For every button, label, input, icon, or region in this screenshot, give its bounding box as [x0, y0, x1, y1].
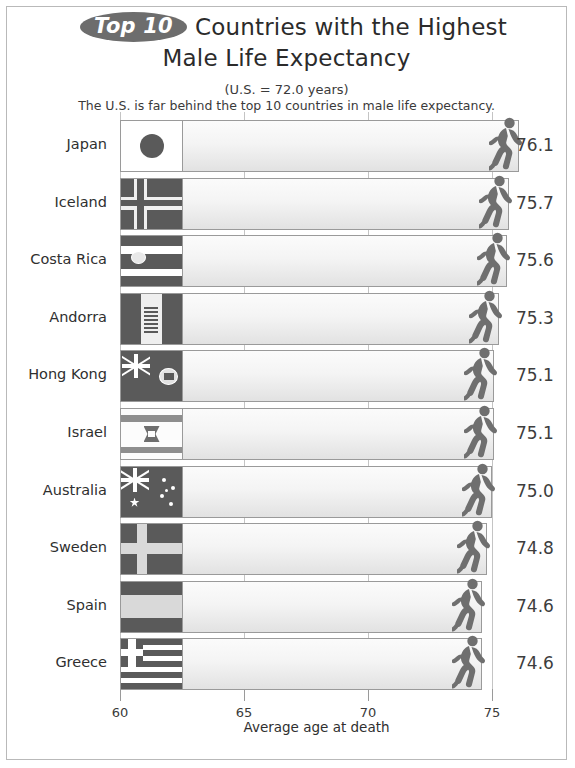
- bar-row: [120, 235, 507, 287]
- country-label: Costa Rica: [7, 251, 107, 267]
- bar-row: [120, 638, 482, 690]
- country-label: Israel: [7, 424, 107, 440]
- flag-andorra-icon: [120, 293, 183, 345]
- bar-row: [120, 581, 482, 633]
- axis-tick: [244, 689, 245, 701]
- title-line-1: Top 10Countries with the Highest: [7, 13, 566, 44]
- value-label: 75.6: [516, 250, 554, 270]
- top-10-badge: Top 10: [80, 12, 187, 42]
- runner-icon: [457, 519, 491, 577]
- flag-iceland-icon: [120, 178, 183, 230]
- runner-icon: [452, 634, 486, 692]
- value-label: 75.0: [516, 481, 554, 501]
- flag-australia-icon: [120, 466, 183, 518]
- runner-icon: [477, 231, 511, 289]
- subtitle-us-value: (U.S. = 72.0 years): [7, 82, 566, 98]
- country-label: Andorra: [7, 309, 107, 325]
- flag-costa-rica-icon: [120, 235, 183, 287]
- infographic-figure: Top 10Countries with the Highest Male Li…: [6, 6, 567, 760]
- country-label: Hong Kong: [7, 366, 107, 382]
- flag-japan-icon: [120, 120, 183, 172]
- runner-icon: [464, 404, 498, 462]
- subtitle-description: The U.S. is far behind the top 10 countr…: [7, 98, 566, 114]
- value-label: 74.6: [516, 653, 554, 673]
- axis-tick: [492, 689, 493, 701]
- x-axis-title: Average age at death: [7, 719, 575, 735]
- value-label: 74.8: [516, 538, 554, 558]
- chart-header: Top 10Countries with the Highest Male Li…: [7, 13, 566, 114]
- axis-tick: [368, 689, 369, 701]
- title-text-1: Countries with the Highest: [195, 14, 507, 40]
- axis-tick-label: 60: [112, 705, 129, 720]
- runner-icon: [464, 346, 498, 404]
- bar-row: [120, 178, 509, 230]
- country-label: Japan: [7, 136, 107, 152]
- flag-spain-icon: [120, 581, 183, 633]
- runner-icon: [469, 289, 503, 347]
- bar-row: [120, 350, 494, 402]
- value-label: 75.7: [516, 193, 554, 213]
- runner-icon: [462, 462, 496, 520]
- title-line-2: Male Life Expectancy: [7, 44, 566, 73]
- value-label: 76.1: [516, 135, 554, 155]
- bar-row: [120, 120, 519, 172]
- value-label: 74.6: [516, 596, 554, 616]
- country-label: Greece: [7, 654, 107, 670]
- bar-row: [120, 523, 487, 575]
- flag-hong-kong-icon: [120, 350, 183, 402]
- bar-row: [120, 293, 499, 345]
- bar-row: [120, 408, 494, 460]
- flag-israel-icon: [120, 408, 183, 460]
- country-label: Sweden: [7, 539, 107, 555]
- value-label: 75.1: [516, 423, 554, 443]
- axis-tick-label: 75: [484, 705, 501, 720]
- runner-icon: [479, 174, 513, 232]
- axis-tick-label: 70: [360, 705, 377, 720]
- bar-row: [120, 466, 492, 518]
- axis-tick: [120, 689, 121, 701]
- country-label: Iceland: [7, 194, 107, 210]
- flag-greece-icon: [120, 638, 183, 690]
- value-label: 75.3: [516, 308, 554, 328]
- axis-tick-label: 65: [236, 705, 253, 720]
- value-label: 75.1: [516, 365, 554, 385]
- country-label: Australia: [7, 482, 107, 498]
- country-label: Spain: [7, 597, 107, 613]
- runner-icon: [452, 577, 486, 635]
- flag-sweden-icon: [120, 523, 183, 575]
- chart-plot-area: Japan76.1Iceland75.7Costa Rica75.6Andorr…: [120, 120, 492, 695]
